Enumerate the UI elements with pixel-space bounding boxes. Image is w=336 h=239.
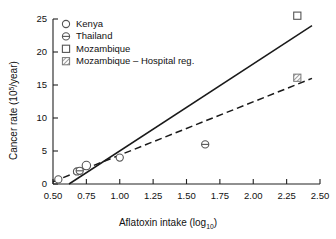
y-tick-label: 0 [42, 178, 47, 189]
legend-item-kenya: Kenya [62, 18, 103, 29]
data-point-thailand [76, 167, 83, 174]
data-point-mozambique [294, 12, 301, 19]
data-point-kenya [55, 176, 62, 183]
legend-marker-barred-circle [62, 33, 69, 40]
legend-item-mozambique-hospital-reg: Mozambique – Hospital reg. [62, 55, 194, 66]
legend-label: Mozambique – Hospital reg. [76, 55, 194, 66]
y-tick-label: 10 [36, 112, 47, 123]
x-axis-ticks [53, 179, 320, 184]
legend-item-thailand: Thailand [62, 30, 112, 41]
x-tick-label: 0.50 [44, 190, 63, 201]
data-point-mozambique-hospital-reg [294, 74, 301, 81]
legend-marker-hatched-square [62, 58, 69, 65]
y-tick-label: 20 [36, 46, 47, 57]
data-point-kenya [82, 161, 90, 169]
x-tick-label: 1.75 [211, 190, 230, 201]
x-tick-label: 2.50 [311, 190, 330, 201]
y-axis-ticks [53, 19, 58, 184]
x-axis-tick-labels: 0.500.751.001.251.501.752.002.252.50 [44, 190, 330, 201]
legend-label: Thailand [76, 30, 112, 41]
y-axis-tick-labels: 0510152025 [36, 13, 47, 189]
x-tick-label: 0.75 [77, 190, 96, 201]
y-tick-label: 15 [36, 79, 47, 90]
legend: KenyaThailandMozambiqueMozambique – Hosp… [62, 18, 194, 66]
svg-text:Aflatoxin intake (log10): Aflatoxin intake (log10) [119, 217, 217, 230]
data-point-thailand [202, 141, 209, 148]
x-tick-label: 2.00 [244, 190, 263, 201]
chart-svg: 0510152025 0.500.751.001.251.501.752.002… [0, 0, 336, 239]
legend-item-mozambique: Mozambique [62, 43, 130, 54]
x-tick-label: 1.00 [111, 190, 130, 201]
data-point-kenya [116, 154, 123, 161]
y-axis-title: Cancer rate (105/year) [8, 61, 20, 160]
x-axis-title: Aflatoxin intake (log10) [119, 217, 217, 230]
legend-marker-open-square [62, 45, 69, 52]
svg-text:Cancer rate (105/year): Cancer rate (105/year) [8, 61, 20, 160]
figure-container: 0510152025 0.500.751.001.251.501.752.002… [0, 0, 336, 239]
legend-label: Mozambique [76, 43, 130, 54]
dashed-regression-line [53, 78, 312, 181]
x-tick-label: 1.25 [144, 190, 163, 201]
legend-marker-open-circle [62, 20, 69, 27]
x-tick-label: 2.25 [277, 190, 296, 201]
legend-label: Kenya [76, 18, 104, 29]
y-tick-label: 5 [42, 145, 47, 156]
x-tick-label: 1.50 [177, 190, 196, 201]
y-tick-label: 25 [36, 13, 47, 24]
